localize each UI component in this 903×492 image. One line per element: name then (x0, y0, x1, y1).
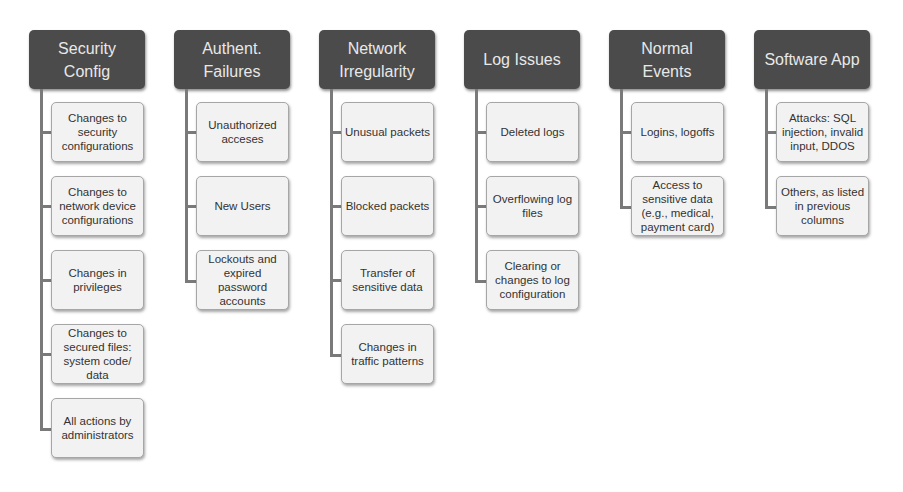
header-network-irregularity: Network Irregularity (319, 30, 435, 89)
item-transfer-sensitive-data: Transfer of sensitive data (341, 250, 434, 310)
item-unusual-packets: Unusual packets (341, 102, 434, 162)
header-log-issues: Log Issues (464, 30, 580, 89)
connector-line (620, 89, 623, 209)
item-deleted-logs: Deleted logs (486, 102, 579, 162)
item-changes-in-privileges: Changes in privileges (51, 250, 144, 310)
item-new-users: New Users (196, 176, 289, 236)
header-security-config: Security Config (29, 30, 145, 89)
connector-line (185, 89, 188, 283)
item-log-config-changes: Clearing or changes to log configuration (486, 250, 579, 310)
item-security-configurations: Changes to security configurations (51, 102, 144, 162)
connector-line (475, 89, 478, 283)
item-blocked-packets: Blocked packets (341, 176, 434, 236)
item-sensitive-data-access: Access to sensitive data (e.g., medical,… (631, 176, 724, 236)
item-network-device-configurations: Changes to network device configurations (51, 176, 144, 236)
item-unauthorized-accesses: Unauthorized acceses (196, 102, 289, 162)
item-secured-files: Changes to secured files: system code/ d… (51, 324, 144, 384)
item-traffic-pattern-changes: Changes in traffic patterns (341, 324, 434, 384)
item-others: Others, as listed in previous columns (776, 176, 869, 236)
item-logins-logoffs: Logins, logoffs (631, 102, 724, 162)
connector-line (40, 89, 43, 431)
item-overflowing-log-files: Overflowing log files (486, 176, 579, 236)
item-attacks: Attacks: SQL injection, invalid input, D… (776, 102, 869, 162)
connector-line (330, 89, 333, 357)
item-lockouts-expired-accounts: Lockouts and expired password accounts (196, 250, 289, 310)
header-software-app: Software App (754, 30, 870, 89)
header-normal-events: Normal Events (609, 30, 725, 89)
connector-line (765, 89, 768, 209)
item-admin-actions: All actions by administrators (51, 398, 144, 458)
header-authent-failures: Authent. Failures (174, 30, 290, 89)
